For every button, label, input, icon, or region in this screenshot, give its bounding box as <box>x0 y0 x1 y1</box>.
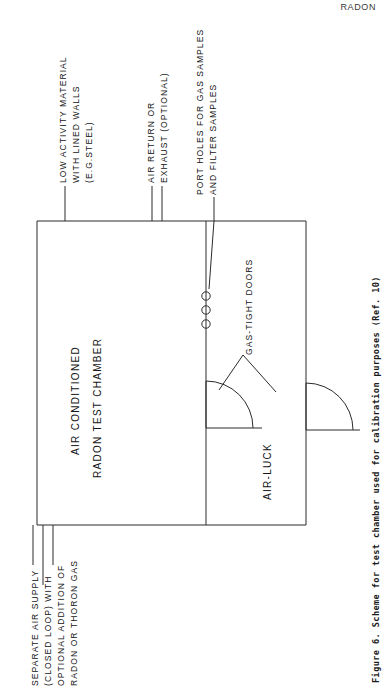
figure-caption: Figure 6. Scheme for test chamber used f… <box>371 276 381 683</box>
label-gas-tight-doors: GAS-TIGHT DOORS <box>244 259 254 355</box>
callout-port-holes-line-2: AND FILTER SAMPLES <box>208 84 218 195</box>
label-air-lock: AIR-LUCK <box>262 443 273 500</box>
callout-air-return-line-1: AIR RETURN OR <box>146 102 156 183</box>
callout-air-return-line-2: EXHAUST (OPTIONAL) <box>159 72 169 183</box>
callout-air-supply-line-4: RADON OR THORON GAS <box>69 560 79 686</box>
callout-air-supply-line-2: (CLOSED LOOP) WITH <box>43 576 53 686</box>
callout-wall-material-line-3: (E.G.STEEL) <box>84 121 94 183</box>
air-return-pipes <box>152 186 162 221</box>
gas-tight-door-inner <box>206 381 262 428</box>
gas-tight-door-outer <box>306 383 360 430</box>
callout-wall-material-line-1: LOW ACTIVITY MATERIAL <box>58 56 68 183</box>
callout-port-holes-line-1: PORT HOLES FOR GAS SAMPLES <box>195 29 205 195</box>
callout-air-supply-line-1: SEPARATE AIR SUPPLY <box>30 570 40 686</box>
port-holes-leader <box>209 197 214 289</box>
label-chamber-line-2: RADON TEST CHAMBER <box>92 338 103 478</box>
callout-wall-material-line-2: WITH LINED WALLS <box>71 85 81 183</box>
callout-air-supply-line-3: OPTIONAL ADDITION OF <box>56 565 66 686</box>
figure-page: RADON <box>0 0 384 692</box>
label-chamber-line-1: AIR CONDITIONED <box>70 346 81 455</box>
